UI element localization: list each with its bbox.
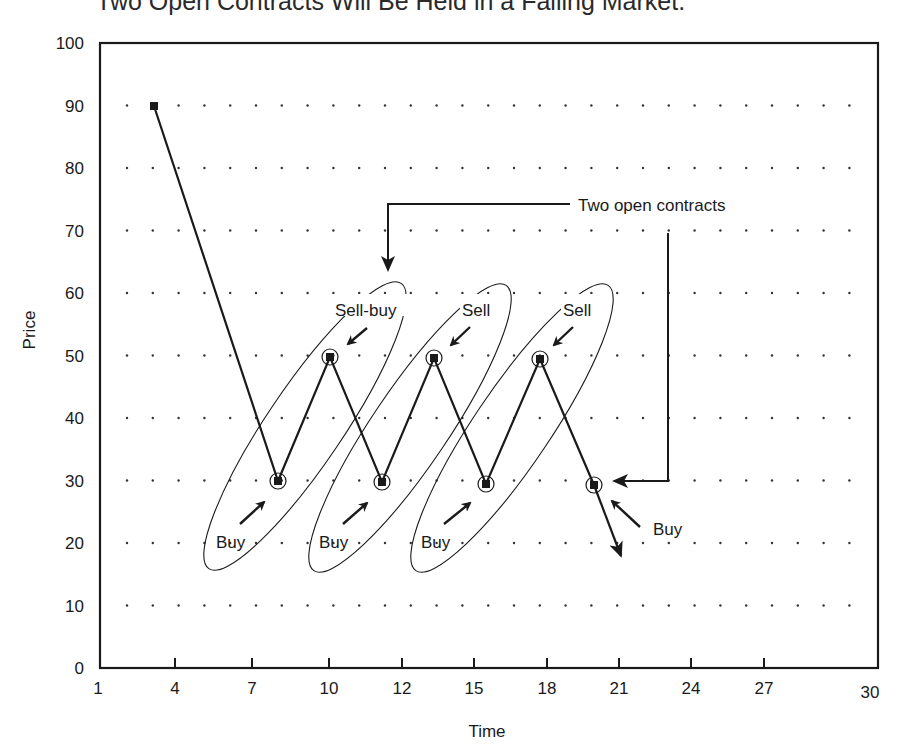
x-tick-label: 24 [682,679,701,698]
sell-arrow-icon [451,327,470,345]
dotted-grid [126,104,851,606]
buy-label-2: Buy [319,533,349,552]
two-open-contracts-connectors [388,204,668,481]
buy-label-3: Buy [421,533,451,552]
y-axis-label: Price [20,311,39,350]
buy-label-1: Buy [216,533,246,552]
y-tick-label: 20 [65,534,84,553]
y-tick-label: 40 [65,409,84,428]
two-open-contracts-label: Two open contracts [578,196,725,215]
x-tick-label: 18 [538,679,557,698]
x-tick-label: 10 [320,679,339,698]
y-tick-label: 100 [56,34,84,53]
y-tick-label: 90 [65,97,84,116]
y-tick-label: 0 [75,659,84,678]
x-tick-label: 1 [93,679,102,698]
x-tick-label: 30 [861,683,880,702]
connector-to-sell-buy [388,204,570,270]
sell-buy-arrow-icon [348,328,367,344]
x-tick-label: 4 [170,679,179,698]
sell-arrow-icon [554,327,573,345]
y-tick-label: 70 [65,222,84,241]
sell-buy-label: Sell-buy [335,301,397,320]
y-tick-label: 80 [65,159,84,178]
start-marker [150,102,158,110]
x-tick-label: 27 [755,679,774,698]
buy-arrow-icon [612,501,640,527]
sell-label-1: Sell [462,301,490,320]
x-tick-label: 21 [610,679,629,698]
buy-label-4: Buy [653,520,683,539]
chart: 1471012151821242730 01020304050607080901… [0,0,904,744]
y-tick-label: 50 [65,347,84,366]
sell-label-2: Sell [563,301,591,320]
x-tick-label: 15 [465,679,484,698]
buy-arrow-icon [343,503,367,524]
x-axis-ticks: 1471012151821242730 [93,658,879,702]
y-tick-label: 60 [65,284,84,303]
y-tick-label: 30 [65,472,84,491]
connector-to-final-buy [614,233,668,481]
y-axis-ticks: 0102030405060708090100 [56,34,84,678]
x-tick-label: 7 [247,679,256,698]
buy-arrow-icon [444,503,470,524]
x-axis-label: Time [468,722,505,741]
y-tick-label: 10 [65,597,84,616]
price-down-arrow [594,485,621,556]
x-tick-label: 12 [393,679,412,698]
buy-arrow-icon [240,502,264,524]
